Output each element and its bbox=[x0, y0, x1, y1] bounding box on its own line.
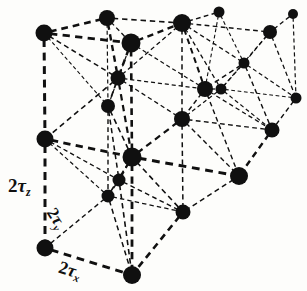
lattice-edge bbox=[187, 27, 240, 61]
lattice-node bbox=[214, 7, 225, 18]
lattice-node bbox=[122, 34, 141, 53]
lattice-edge bbox=[224, 91, 268, 126]
lattice-edge bbox=[131, 50, 132, 150]
lattice-edge bbox=[137, 47, 200, 86]
lattice-edge bbox=[111, 22, 126, 38]
lattice-edge bbox=[293, 18, 296, 94]
lattice-node bbox=[288, 9, 298, 19]
lattice-node bbox=[263, 25, 277, 39]
lattice-edge bbox=[275, 101, 293, 126]
lattice-node bbox=[216, 84, 227, 95]
lattice-node bbox=[265, 123, 280, 138]
lattice-node bbox=[37, 240, 54, 257]
lattice-figure: 2τz 2τy 2τx bbox=[0, 0, 307, 291]
lattice-edge bbox=[109, 111, 119, 175]
lattice-node bbox=[102, 190, 115, 203]
lattice-edge bbox=[188, 13, 215, 21]
lattice-edge bbox=[123, 79, 199, 89]
lattice-node bbox=[176, 205, 191, 220]
lattice-node bbox=[239, 58, 250, 69]
lattice-edge bbox=[50, 34, 124, 43]
lattice-edge bbox=[113, 18, 176, 22]
lattice-edge bbox=[50, 19, 101, 31]
lattice-node bbox=[123, 148, 142, 167]
lattice-edge bbox=[272, 37, 295, 95]
lattice-node bbox=[123, 266, 141, 284]
lattice-edge bbox=[137, 122, 177, 152]
axis-label-z-symbol: τ bbox=[18, 175, 26, 196]
lattice-edge bbox=[210, 65, 241, 86]
lattice-edge bbox=[44, 39, 45, 133]
lattice-node bbox=[291, 93, 302, 104]
lattice-edge bbox=[243, 134, 269, 170]
axis-label-z: 2τz bbox=[8, 176, 31, 199]
lattice-edge bbox=[48, 38, 105, 103]
lattice-edge bbox=[247, 65, 292, 96]
lattice-edge bbox=[49, 36, 113, 75]
axis-label-z-coefficient: 2 bbox=[8, 175, 18, 196]
lattice-edge bbox=[186, 123, 234, 171]
lattice-edge bbox=[137, 162, 180, 208]
lattice-node bbox=[174, 111, 190, 127]
lattice-edge bbox=[225, 89, 292, 97]
lattice-node bbox=[197, 81, 213, 97]
lattice-edge bbox=[107, 24, 108, 101]
lattice-edge bbox=[274, 16, 290, 29]
lattice-node bbox=[230, 167, 248, 185]
lattice-node bbox=[36, 25, 53, 42]
lattice-edge bbox=[184, 29, 203, 83]
lattice-edge bbox=[120, 185, 131, 269]
lattice-edge bbox=[188, 120, 267, 130]
lattice-node bbox=[37, 131, 54, 148]
lattice-node bbox=[113, 174, 126, 187]
lattice-node bbox=[173, 14, 191, 32]
lattice-node bbox=[111, 71, 126, 86]
lattice-edge bbox=[139, 158, 233, 175]
axis-label-z-subscript: z bbox=[26, 186, 31, 199]
lattice-edge bbox=[108, 24, 117, 73]
lattice-node bbox=[101, 99, 115, 113]
lattice-diagram bbox=[0, 0, 307, 291]
edge-layer bbox=[44, 13, 296, 273]
lattice-edge bbox=[186, 94, 202, 115]
lattice-edge bbox=[188, 180, 234, 210]
lattice-edge bbox=[136, 216, 180, 270]
lattice-edge bbox=[221, 16, 243, 60]
lattice-node bbox=[99, 10, 115, 26]
